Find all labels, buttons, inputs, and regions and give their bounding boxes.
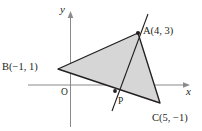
point-p-dot bbox=[113, 89, 117, 93]
point-b-label: B(−1, 1) bbox=[2, 62, 38, 73]
coordinate-plane-figure: y x O A(4, 3) B(−1, 1) C(5, −1) P bbox=[0, 0, 202, 131]
x-axis-label: x bbox=[186, 86, 191, 97]
y-axis-label: y bbox=[60, 4, 65, 15]
point-a-dot bbox=[136, 31, 140, 35]
origin-label: O bbox=[61, 88, 68, 98]
point-p-label: P bbox=[118, 97, 123, 107]
point-c-label: C(5, −1) bbox=[152, 113, 188, 124]
point-a-label: A(4, 3) bbox=[143, 26, 173, 37]
triangle-abc-fill bbox=[58, 33, 160, 103]
